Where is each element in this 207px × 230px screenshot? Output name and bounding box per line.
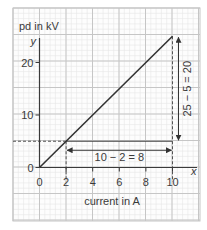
x-axis-variable-label: x bbox=[190, 165, 197, 177]
graph-paper-grid bbox=[13, 8, 200, 221]
y-tick-label: 20 bbox=[21, 57, 33, 69]
x-tick-label: 0 bbox=[36, 176, 42, 188]
x-tick-label: 4 bbox=[90, 176, 96, 188]
x-axis-title: current in A bbox=[84, 195, 140, 207]
y-tick-label: 10 bbox=[21, 109, 33, 121]
x-tick-label: 8 bbox=[143, 176, 149, 188]
x-tick-label: 6 bbox=[116, 176, 122, 188]
run-annotation-label: 10 − 2 = 8 bbox=[95, 151, 145, 163]
y-tick-label: 0 bbox=[27, 162, 33, 174]
rise-annotation-label: 25 − 5 = 20 bbox=[181, 61, 193, 117]
gradient-graph: pd in kV current in A y x 0246810 01020 … bbox=[0, 0, 207, 230]
x-tick-label: 10 bbox=[166, 176, 178, 188]
x-tick-label: 2 bbox=[63, 176, 69, 188]
y-axis-title: pd in kV bbox=[19, 20, 59, 32]
